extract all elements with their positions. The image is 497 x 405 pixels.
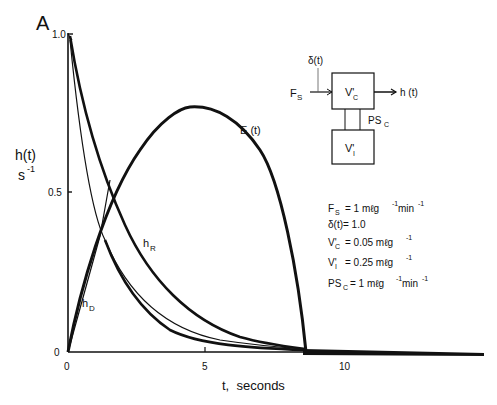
label-e: E (t) — [240, 124, 261, 136]
label-hr-sub: R — [150, 244, 156, 253]
label-hd: h — [82, 297, 88, 309]
svg-text:S: S — [335, 209, 340, 216]
y-tick-05: 0.5 — [48, 187, 62, 198]
label-hr: h — [143, 237, 149, 249]
diagram-delta: δ(t) — [308, 55, 323, 66]
svg-text:PS: PS — [328, 278, 342, 289]
series-tail — [303, 349, 484, 356]
parameter-list: F S = 1 mℓg -1 min -1 δ(t)= 1.0 V' C = 0… — [328, 200, 428, 291]
x-axis-label: t, seconds — [222, 378, 285, 393]
diagram-vi-sub: I — [353, 150, 355, 157]
y-tick-0: 0 — [54, 347, 60, 358]
label-hd-sub: D — [89, 304, 95, 313]
svg-text:= 1 mℓg: = 1 mℓg — [350, 278, 384, 289]
svg-text:= 1 mℓg: = 1 mℓg — [345, 203, 379, 214]
series-hr — [70, 36, 305, 349]
series-hd-thick — [105, 240, 305, 350]
y-axis-label: h(t) — [15, 147, 36, 163]
diagram-ps: PS — [368, 115, 382, 126]
svg-text:= 0.05 mℓg: = 0.05 mℓg — [345, 237, 393, 248]
diagram-fs: F — [290, 87, 297, 99]
svg-text:-1: -1 — [422, 275, 428, 282]
series-hd — [70, 40, 305, 349]
x-tick-0: 0 — [64, 361, 70, 372]
chart: A 1.0 0.5 0 0 5 10 t, seconds h(t) s -1 … — [0, 0, 497, 405]
svg-text:-1: -1 — [418, 200, 424, 207]
svg-text:F: F — [328, 203, 334, 214]
diagram-vc-sub: C — [353, 94, 358, 101]
svg-text:min: min — [398, 203, 414, 214]
y-axis-units-exp: -1 — [27, 164, 35, 174]
svg-text:C: C — [335, 243, 340, 250]
diagram-ps-sub: C — [384, 121, 389, 128]
x-tick-5: 5 — [202, 361, 208, 372]
svg-text:δ(t)= 1.0: δ(t)= 1.0 — [328, 219, 366, 230]
svg-text:= 0.25 mℓg: = 0.25 mℓg — [345, 257, 393, 268]
svg-text:min: min — [402, 278, 418, 289]
svg-text:C: C — [343, 284, 348, 291]
x-tick-10: 10 — [339, 361, 351, 372]
diagram-fs-sub: S — [297, 93, 302, 102]
series-e — [68, 107, 306, 352]
y-tick-1: 1.0 — [52, 29, 66, 40]
y-axis-units: s — [18, 167, 25, 183]
panel-label: A — [36, 12, 50, 34]
svg-text:-1: -1 — [406, 234, 412, 241]
svg-text:I: I — [335, 263, 337, 270]
diagram-ht: h (t) — [400, 87, 418, 98]
svg-text:-1: -1 — [406, 254, 412, 261]
